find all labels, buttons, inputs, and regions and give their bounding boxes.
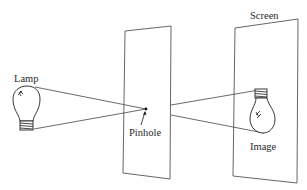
pinhole-dot: [145, 108, 148, 111]
image-label: Image: [250, 141, 277, 152]
pinhole-camera-diagram: Lamp Pinhole Screen Image: [0, 0, 307, 190]
pinhole-barrier-panel: [123, 26, 171, 179]
pinhole-label: Pinhole: [129, 127, 161, 138]
lamp-label: Lamp: [14, 73, 39, 84]
lamp-bulb-icon: [13, 86, 40, 130]
screen-label: Screen: [250, 10, 279, 21]
